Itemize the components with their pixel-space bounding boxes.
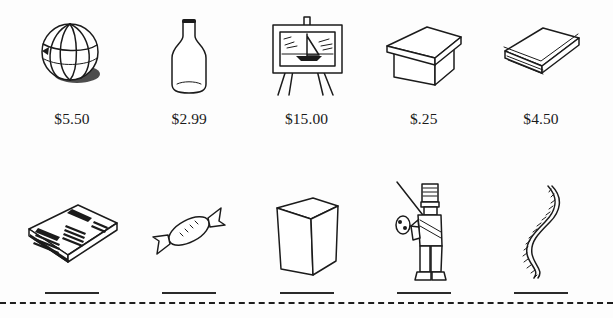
answer-blank-line[interactable] [514, 292, 568, 294]
item-cell-candy [133, 152, 245, 294]
item-cell-box: $.25 [368, 4, 480, 126]
painting-easel-icon [263, 9, 351, 101]
item-price: $4.50 [523, 111, 558, 127]
item-price: $15.00 [285, 111, 328, 127]
item-cell-rope [485, 152, 597, 294]
bottle-icon [161, 9, 217, 101]
beach-ball-icon [33, 9, 111, 101]
blank-items-row [0, 152, 613, 294]
newspaper-icon [22, 188, 122, 280]
priced-items-row: $5.50 $2.99 [0, 4, 613, 126]
item-cell-toy-soldier [368, 152, 480, 294]
answer-blank-line[interactable] [397, 292, 451, 294]
toy-soldier-icon [389, 188, 459, 280]
item-price: $5.50 [54, 111, 89, 127]
candy-icon [149, 188, 229, 280]
item-price: $.25 [410, 111, 438, 127]
box-with-lid-icon [382, 9, 466, 101]
item-price: $2.99 [172, 111, 207, 127]
answer-blank-line[interactable] [280, 292, 334, 294]
book-icon [495, 9, 587, 101]
dashed-cut-line [0, 302, 613, 304]
item-cell-book: $4.50 [485, 4, 597, 126]
answer-blank-line[interactable] [162, 292, 216, 294]
answer-blank-line[interactable] [45, 292, 99, 294]
item-cell-painting: $15.00 [251, 4, 363, 126]
rope-icon [508, 188, 574, 280]
item-cell-bottle: $2.99 [133, 4, 245, 126]
item-cell-beach-ball: $5.50 [16, 4, 128, 126]
carton-box-icon [269, 188, 345, 280]
worksheet-page: $5.50 $2.99 [0, 0, 613, 318]
item-cell-newspaper [16, 152, 128, 294]
item-cell-carton [251, 152, 363, 294]
